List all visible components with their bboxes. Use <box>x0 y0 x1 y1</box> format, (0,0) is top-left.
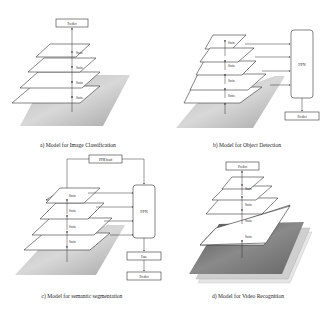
caption-d: d) Model for Video Recognition <box>212 293 284 300</box>
stage-label: Swin <box>76 66 83 70</box>
stage-label: Swin <box>69 194 76 198</box>
caption-b: b) Model for Object Detection <box>213 142 281 149</box>
panel-b: Swin Swin Swin Swin FPN Predict b) Model… <box>176 30 319 149</box>
figure-canvas: Swin Swin Swin Swin Predict a) Model for… <box>0 0 332 315</box>
caption-c: c) Model for semantic segmentation <box>42 293 123 300</box>
stage-label: Swin <box>76 81 83 85</box>
swin-stage-3 <box>28 58 96 72</box>
stage-label: Swin <box>245 187 252 191</box>
stage-label: Swin <box>228 79 235 83</box>
stage-label: Swin <box>245 219 252 223</box>
stage-label: Swin <box>76 51 83 55</box>
swin-stage-3 <box>196 61 256 75</box>
stage-label: Swin <box>228 64 235 68</box>
stage-label: Swin <box>228 94 235 98</box>
stage-label: Swin <box>245 203 252 207</box>
predict-label: Predict <box>139 275 148 279</box>
connector <box>67 159 89 188</box>
swin-stage-4 <box>205 35 246 49</box>
stage-label: Swin <box>228 41 235 45</box>
stage-label: Swin <box>69 240 76 244</box>
stage-label: Swin <box>76 96 83 100</box>
fuse-label: Fuse <box>141 255 148 259</box>
panel-c: Swin Swin Swin Swin PPM head FPN Fuse Pr… <box>15 155 161 300</box>
arrow-icon <box>122 159 144 184</box>
panel-a: Swin Swin Swin Swin Predict a) Model for… <box>12 19 130 149</box>
predict-label: Predict <box>297 115 306 119</box>
predict-label: Predict <box>67 22 76 26</box>
stage-label: Swin <box>69 209 76 213</box>
predict-label: Predict <box>238 165 247 169</box>
panel-d: Swin Swin Swin Swin Predict d) Model for… <box>189 162 312 300</box>
stage-label: Swin <box>245 235 252 239</box>
swin-stage-4b <box>200 48 254 62</box>
ppm-head-label: PPM head <box>99 158 113 162</box>
fpn-label: FPN <box>298 62 305 67</box>
stage-label: Swin <box>69 225 76 229</box>
caption-a: a) Model for Image Classification <box>40 142 116 149</box>
fpn-label: FPN <box>140 209 147 214</box>
